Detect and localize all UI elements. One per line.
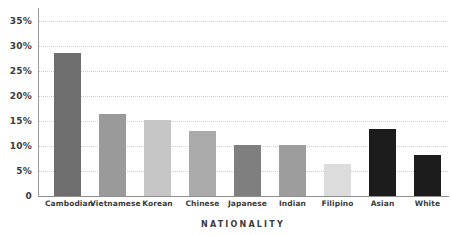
bar-slot [135,8,180,196]
x-axis-tick-label: White [405,199,450,208]
x-axis-tick-labels: CambodianVietnameseKoreanChineseJapanese… [38,199,448,208]
bar-slot [225,8,270,196]
x-axis-tick-label: Cambodian [45,199,90,208]
y-axis-tick-label: 30% [0,41,32,51]
y-axis-tick-label: 0 [0,191,32,201]
bar-slot [270,8,315,196]
y-axis-tick-label: 10% [0,141,32,151]
x-axis-tick-label: Asian [360,199,405,208]
bar-series [38,8,448,196]
x-axis-tick-label: Japanese [225,199,270,208]
y-axis-tick-label: 25% [0,66,32,76]
x-axis-tick-label: Chinese [180,199,225,208]
bar-slot [90,8,135,196]
bar [54,53,81,197]
bar [144,120,171,196]
y-axis-tick-label: 15% [0,116,32,126]
bar [324,164,351,197]
bar [414,155,441,197]
x-axis-line [38,196,449,197]
x-axis-tick-label: Korean [135,199,180,208]
bar-slot [315,8,360,196]
bar [369,129,396,197]
bar [99,114,126,196]
bar [189,131,216,197]
x-axis-title: NATIONALITY [38,220,448,229]
bar-slot [360,8,405,196]
bar [234,145,261,197]
y-axis-tick-label: 20% [0,91,32,101]
bar [279,145,306,197]
y-axis-tick-label: 5% [0,166,32,176]
bar-chart: 05%10%15%20%25%30%35% CambodianVietnames… [0,0,451,235]
bar-slot [45,8,90,196]
bar-slot [405,8,450,196]
bar-slot [180,8,225,196]
y-axis-tick-label: 35% [0,16,32,26]
x-axis-tick-label: Vietnamese [90,199,135,208]
x-axis-tick-label: Indian [270,199,315,208]
x-axis-tick-label: Filipino [315,199,360,208]
